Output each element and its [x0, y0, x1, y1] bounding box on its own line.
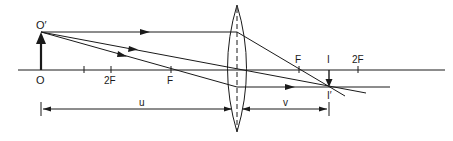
label-image-base: I [327, 54, 330, 65]
label-image-distance: v [283, 97, 288, 108]
ray-center [41, 32, 366, 93]
label-object-top: O′ [36, 19, 47, 31]
label-right-f: F [295, 54, 301, 65]
label-object-base: O [36, 74, 45, 86]
lens-ray-diagram: O′ O 2F F F I 2F I′ u v [0, 0, 453, 141]
label-right-2f: 2F [352, 54, 364, 65]
image-arrow [326, 70, 333, 87]
object-arrow [36, 32, 46, 70]
ray-focal [41, 32, 390, 90]
diagram-canvas: O′ O 2F F F I 2F I′ u v [0, 0, 453, 141]
label-object-distance: u [139, 97, 145, 108]
label-left-f: F [167, 75, 173, 86]
label-left-2f: 2F [104, 75, 116, 86]
label-image-top: I′ [327, 90, 332, 101]
